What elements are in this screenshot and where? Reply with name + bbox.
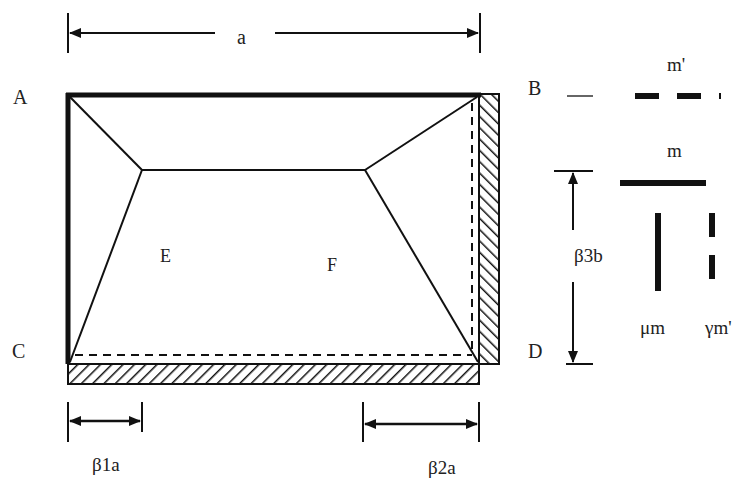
label-beta3b: β3b bbox=[574, 245, 603, 266]
label-beta2a: β2a bbox=[428, 457, 456, 478]
legend-label-m: m bbox=[667, 140, 682, 161]
dimension-beta3b bbox=[554, 171, 593, 364]
corner-label-a: A bbox=[13, 86, 28, 108]
legend-label-m-prime: m' bbox=[667, 54, 685, 75]
dimension-a bbox=[68, 13, 480, 53]
region-label-e: E bbox=[160, 246, 171, 266]
right-support-hatch bbox=[479, 94, 499, 364]
legend-label-mu-m: μm bbox=[640, 317, 665, 338]
bottom-support-hatch bbox=[68, 364, 479, 384]
dimension-beta2a bbox=[363, 402, 479, 442]
corner-label-c: C bbox=[12, 340, 25, 362]
label-beta1a: β1a bbox=[92, 454, 120, 475]
corner-label-d: D bbox=[528, 340, 542, 362]
label-a: a bbox=[237, 26, 246, 48]
yield-lines bbox=[70, 97, 478, 362]
region-label-f: F bbox=[327, 255, 337, 275]
legend: m' m μm γm' bbox=[567, 54, 732, 338]
dimension-beta1a bbox=[68, 402, 142, 442]
yield-line-diagram: a A B C D E F β1a β2a β3b bbox=[0, 0, 739, 484]
legend-label-gamma-m: γm' bbox=[704, 317, 732, 338]
corner-label-b: B bbox=[528, 77, 541, 99]
